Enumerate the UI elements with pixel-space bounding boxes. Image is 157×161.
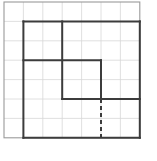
geometry-figure	[0, 0, 157, 161]
figure-canvas	[0, 0, 157, 161]
